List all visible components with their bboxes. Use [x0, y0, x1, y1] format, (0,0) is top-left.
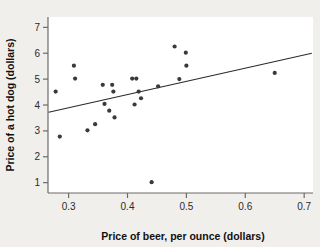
data-point	[173, 44, 177, 48]
x-tick-label-3: 0.6	[238, 201, 252, 212]
x-tick-label-0: 0.3	[62, 201, 76, 212]
data-point	[85, 128, 89, 132]
x-axis-tick-labels: 0.30.40.50.60.7	[62, 201, 312, 212]
scatterplot-canvas: 0.30.40.50.60.7 1234567 Price of beer, p…	[0, 0, 320, 247]
y-tick-label-3: 4	[34, 100, 40, 111]
y-axis-ticks	[43, 27, 48, 182]
data-point	[107, 109, 111, 113]
x-tick-label-1: 0.4	[121, 201, 135, 212]
x-tick-label-4: 0.7	[297, 201, 311, 212]
x-tick-label-2: 0.5	[179, 201, 193, 212]
y-tick-label-4: 5	[34, 74, 40, 85]
data-point	[130, 77, 134, 81]
data-point	[132, 102, 136, 106]
data-point	[273, 71, 277, 75]
plot-area-background	[48, 17, 313, 193]
data-point	[111, 89, 115, 93]
data-point	[101, 83, 105, 87]
data-point	[177, 77, 181, 81]
data-point	[184, 64, 188, 68]
data-point	[110, 83, 114, 87]
data-point	[73, 77, 77, 81]
data-point	[72, 64, 76, 68]
data-point	[137, 89, 141, 93]
data-point	[93, 122, 97, 126]
y-axis-tick-labels: 1234567	[34, 22, 40, 188]
y-axis-title: Price of a hot dog (dollars)	[4, 38, 16, 171]
data-point	[184, 51, 188, 55]
y-tick-label-1: 2	[34, 151, 40, 162]
data-point	[134, 77, 138, 81]
scatterplot-figure: 0.30.40.50.60.7 1234567 Price of beer, p…	[0, 0, 320, 247]
data-point	[54, 89, 58, 93]
y-tick-label-0: 1	[34, 177, 40, 188]
y-tick-label-2: 3	[34, 125, 40, 136]
data-point	[112, 115, 116, 119]
data-point	[58, 134, 62, 138]
x-axis-ticks	[69, 193, 305, 198]
y-tick-label-6: 7	[34, 22, 40, 33]
data-point	[150, 180, 154, 184]
data-point	[102, 102, 106, 106]
data-point	[139, 96, 143, 100]
x-axis-title: Price of beer, per ounce (dollars)	[101, 230, 264, 242]
y-tick-label-5: 6	[34, 48, 40, 59]
data-point	[156, 84, 160, 88]
